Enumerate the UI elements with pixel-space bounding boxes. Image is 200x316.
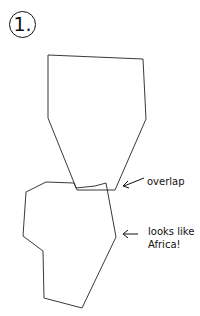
annotation-looks-like: looks like: [148, 226, 194, 238]
top-polygon: [48, 55, 146, 190]
arrow-overlap-icon: [123, 178, 144, 188]
polygon-diagram: [0, 0, 200, 316]
annotation-africa: Africa!: [148, 239, 181, 251]
arrow-africa-icon: [123, 230, 138, 238]
bottom-polygon-africa: [23, 182, 116, 308]
annotation-overlap: overlap: [147, 176, 185, 188]
